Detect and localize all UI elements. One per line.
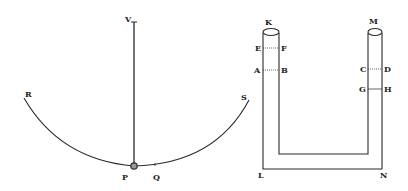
label-p: P xyxy=(122,172,128,182)
u-tube-inner-wall xyxy=(279,33,368,154)
diagram-canvas: V R S P Q K M E F A B C D G H L N xyxy=(0,0,408,191)
pendulum-figure xyxy=(24,22,249,169)
left-tube-opening xyxy=(263,29,279,36)
label-e: E xyxy=(255,43,261,53)
pendulum-bob xyxy=(131,163,137,169)
label-n: N xyxy=(380,170,387,180)
label-a: A xyxy=(253,65,261,75)
label-r: R xyxy=(25,89,32,99)
label-b: B xyxy=(281,65,288,75)
label-d: D xyxy=(384,64,391,74)
label-s: S xyxy=(241,92,247,102)
label-h: H xyxy=(384,84,392,94)
u-tube-outer-wall xyxy=(263,33,382,169)
label-v: V xyxy=(124,14,132,24)
label-q: Q xyxy=(153,172,160,182)
label-g: G xyxy=(359,84,366,94)
right-tube-opening xyxy=(368,29,382,36)
label-l: L xyxy=(258,170,264,180)
swing-arc xyxy=(24,98,249,166)
label-f: F xyxy=(281,43,287,53)
label-m: M xyxy=(369,16,378,26)
label-c: C xyxy=(360,64,366,74)
label-k: K xyxy=(265,17,273,27)
